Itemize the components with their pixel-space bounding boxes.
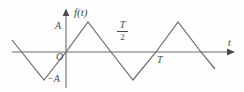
waveform-plot [0, 0, 244, 92]
y-axis-arrowhead [63, 9, 70, 17]
triangular-waveform-curve [12, 22, 215, 80]
amplitude-negative-label: −A [47, 74, 60, 84]
origin-label: O [56, 52, 63, 62]
half-period-numerator: T [118, 20, 128, 30]
half-period-denominator: 2 [120, 33, 125, 42]
x-axis-arrowhead [227, 49, 235, 56]
y-axis-label: f(t) [74, 7, 87, 18]
triangular-wave-figure: f(t) A −A O T 2 T t [0, 0, 244, 92]
amplitude-positive-label: A [55, 21, 61, 31]
half-period-label: T 2 [117, 20, 128, 42]
x-axis-label: t [228, 38, 231, 48]
period-label: T [157, 55, 163, 65]
